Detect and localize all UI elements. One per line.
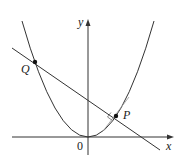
point-q [33,60,37,64]
origin-label: 0 [77,140,83,152]
diagram-canvas: y x 0 Q P [0,0,186,158]
point-p [114,114,118,118]
point-p-label: P [123,109,130,121]
y-axis-label: y [78,16,83,28]
point-q-label: Q [21,63,30,75]
diagram-svg [0,0,186,158]
x-axis-label: x [166,140,171,152]
y-axis-arrow-icon [86,19,91,26]
